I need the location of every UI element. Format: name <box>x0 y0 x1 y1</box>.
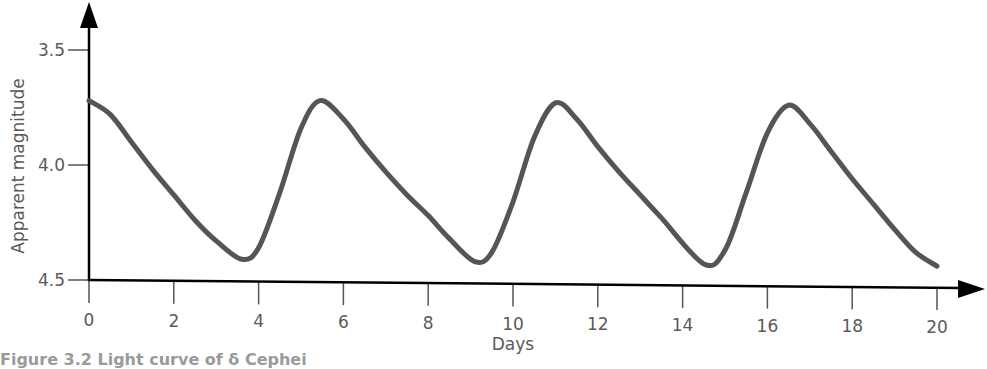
x-axis-title: Days <box>492 334 535 354</box>
x-axis <box>88 280 962 288</box>
x-tick-label: 14 <box>672 315 694 335</box>
x-tick-label: 20 <box>926 317 948 337</box>
x-tick-label: 0 <box>84 310 95 330</box>
y-tick-label: 3.5 <box>38 40 65 60</box>
x-axis-arrow-icon <box>958 280 985 298</box>
x-axis-ticks: 02468101214161820 <box>84 281 948 337</box>
y-axis-title: Apparent magnitude <box>8 78 28 254</box>
y-tick-label: 4.0 <box>38 155 65 175</box>
y-axis-arrow-icon <box>80 2 98 28</box>
x-tick-label: 12 <box>587 314 609 334</box>
x-tick-label: 10 <box>502 314 524 334</box>
x-tick-label: 6 <box>338 312 349 332</box>
figure-caption: Figure 3.2 Light curve of δ Cephei <box>0 350 307 369</box>
light-curve-line <box>89 100 937 266</box>
x-tick-label: 18 <box>841 316 863 336</box>
y-axis-ticks: 3.54.04.5 <box>38 40 89 290</box>
y-tick-label: 4.5 <box>38 270 65 290</box>
x-tick-label: 4 <box>253 311 264 331</box>
x-tick-label: 16 <box>757 316 779 336</box>
x-tick-label: 8 <box>423 313 434 333</box>
x-tick-label: 2 <box>168 311 179 331</box>
